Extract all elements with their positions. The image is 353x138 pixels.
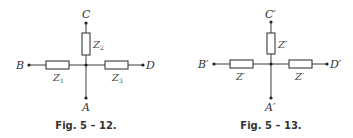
- figure-caption: Fig. 5 – 12.: [55, 120, 116, 131]
- node-label-c-prime: C′: [265, 8, 276, 21]
- node-label-b: B: [15, 59, 24, 72]
- terminal-a-prime-dot: [269, 96, 272, 99]
- node-label-d-prime: D′: [329, 58, 342, 71]
- impedance-label-z-prime-vertical: Z′: [277, 39, 288, 50]
- resistor-z-prime-right: [289, 60, 312, 68]
- resistor-z3: [105, 61, 128, 69]
- terminal-a-dot: [84, 96, 87, 99]
- node-label-a-prime: A′: [264, 101, 276, 114]
- node-label-d: D: [145, 59, 155, 72]
- impedance-label-z2: Z2: [92, 39, 104, 51]
- terminal-b-prime-dot: [212, 62, 215, 65]
- figure-5-12: C B D A Z2 Z1 Z3 Fig. 5 – 12.: [15, 8, 155, 131]
- node-label-a: A: [81, 101, 90, 114]
- figure-caption: Fig. 5 – 13.: [240, 120, 301, 131]
- resistor-z2: [82, 33, 90, 55]
- impedance-label-z-prime-right: Z′: [294, 71, 305, 82]
- node-label-c: C: [82, 8, 91, 21]
- resistor-z-prime-left: [230, 60, 253, 68]
- junction-dot: [269, 62, 272, 65]
- junction-dot: [84, 63, 87, 66]
- impedance-label-z3: Z3: [111, 72, 123, 84]
- figure-5-13: C′ B′ D′ A′ Z′ Z′ Z′ Fig. 5 – 13.: [197, 8, 342, 131]
- terminal-b-dot: [27, 63, 30, 66]
- impedance-label-z-prime-left: Z′: [235, 71, 246, 82]
- resistor-z1: [46, 61, 69, 69]
- resistor-z-prime-vertical: [267, 33, 275, 54]
- terminal-d-prime-dot: [325, 62, 328, 65]
- terminal-d-dot: [141, 63, 144, 66]
- impedance-label-z1: Z1: [52, 72, 64, 84]
- terminal-c-dot: [84, 21, 87, 24]
- node-label-b-prime: B′: [197, 58, 209, 71]
